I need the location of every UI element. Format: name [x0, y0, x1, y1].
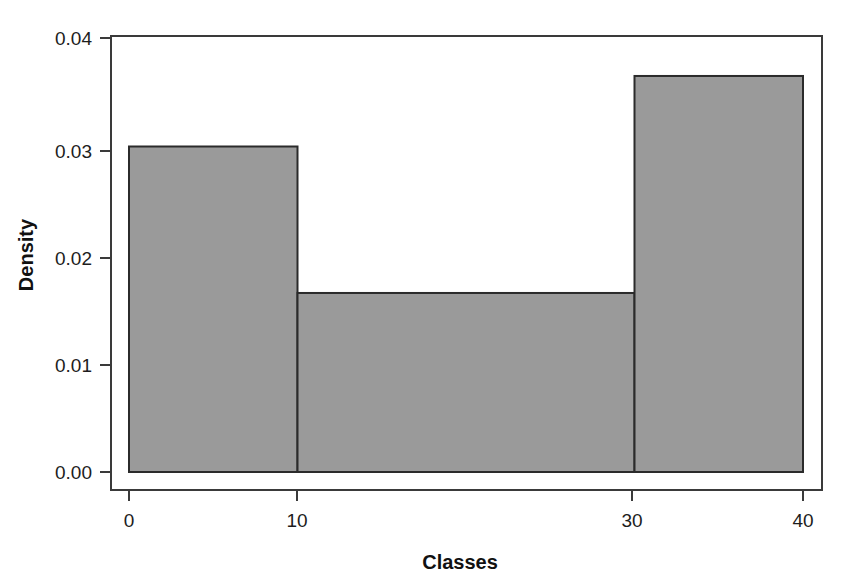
y-tick-label: 0.04 [55, 28, 92, 49]
x-axis-title: Classes [422, 551, 498, 573]
y-tick-label: 0.01 [55, 355, 92, 376]
y-tick-label: 0.00 [55, 462, 92, 483]
histogram-bar[interactable] [298, 293, 635, 472]
histogram-figure: 0.00 0.01 0.02 0.03 0.04 Density 0 10 30… [0, 0, 844, 587]
y-tick-label: 0.03 [55, 141, 92, 162]
histogram-bar[interactable] [129, 147, 298, 473]
x-tick-label: 0 [124, 510, 135, 531]
y-axis-title: Density [15, 218, 37, 291]
x-tick-label: 10 [286, 510, 307, 531]
x-tick-label: 30 [621, 510, 642, 531]
histogram-plot: 0.00 0.01 0.02 0.03 0.04 Density 0 10 30… [0, 0, 844, 587]
histogram-bar[interactable] [635, 76, 804, 472]
y-tick-label: 0.02 [55, 248, 92, 269]
x-tick-label: 40 [792, 510, 813, 531]
